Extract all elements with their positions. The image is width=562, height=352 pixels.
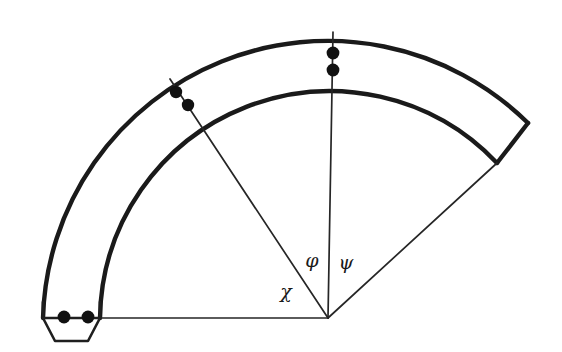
- figure-canvas: φ ψ χ: [0, 0, 562, 352]
- label-phi: φ: [305, 249, 319, 271]
- geometric-diagram: φ ψ χ: [0, 0, 562, 352]
- right-end-cap: [497, 123, 528, 163]
- ray-chi: [170, 79, 328, 318]
- outer-arc: [43, 41, 528, 318]
- dot-chi-inner: [182, 99, 194, 111]
- dot-base-left: [58, 311, 71, 324]
- dot-phi-inner: [327, 64, 340, 77]
- label-psi: ψ: [339, 251, 355, 273]
- dot-phi-outer: [327, 47, 340, 60]
- dot-base-right: [82, 311, 95, 324]
- label-chi: χ: [278, 280, 293, 302]
- ray-psi: [328, 163, 497, 318]
- inner-arc: [100, 91, 497, 318]
- dot-chi-outer: [170, 86, 182, 98]
